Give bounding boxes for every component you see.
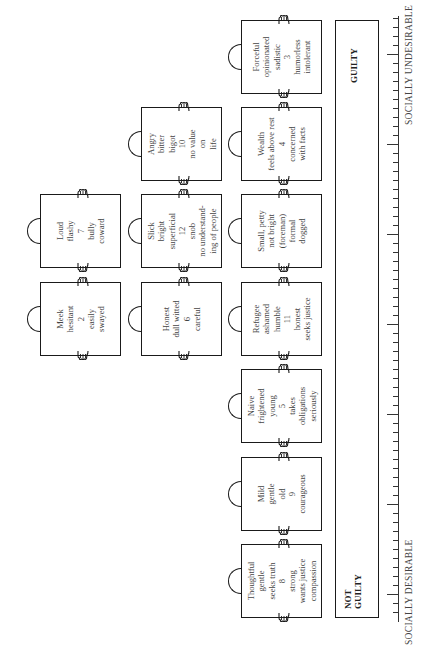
juror-card-text: Small, pettynot bright(foreman)formaldog…	[256, 195, 307, 267]
juror-card-wealth: Wealthfeels above rest4concernedwith fac…	[241, 107, 322, 181]
juror-trait: Thoughtful	[245, 545, 255, 617]
scale-tick	[393, 360, 399, 361]
juror-trait: with facts	[297, 108, 307, 180]
scale-tick	[393, 288, 399, 289]
scale-tick	[393, 153, 399, 154]
juror-trait: humble	[271, 283, 281, 355]
juror-trait: snob	[187, 195, 197, 267]
juror-trait: flashy	[65, 195, 75, 267]
scale-tick	[393, 243, 399, 244]
scale-tick	[393, 612, 399, 613]
scale-tick	[393, 351, 399, 352]
scale-label-undesirable: SOCIALLY UNDESIRABLE	[404, 5, 414, 125]
juror-trait: Mild	[256, 458, 266, 530]
juror-trait: bigot	[166, 108, 176, 180]
scale-tick	[393, 36, 399, 37]
juror-trait: no understand-	[197, 195, 207, 267]
juror-trait: ashamed	[261, 283, 271, 355]
scale-tick	[393, 396, 399, 397]
scale-tick	[393, 333, 399, 334]
juror-trait: Meek	[55, 283, 65, 355]
semicircle-handle-icon	[228, 481, 242, 507]
scale-tick	[393, 189, 399, 190]
semicircle-handle-icon	[228, 568, 242, 594]
juror-card-mild: Mildgentleold9courageous	[241, 457, 322, 531]
juror-card-forceful: Forcefulopinionatedsadistic3humorlessint…	[241, 20, 322, 94]
scale-tick	[393, 81, 399, 82]
juror-trait: hesitant	[65, 283, 75, 355]
juror-trait: wants justice	[297, 545, 307, 617]
juror-trait: bully	[86, 195, 96, 267]
juror-trait: coward	[96, 195, 106, 267]
juror-trait: no value	[187, 108, 197, 180]
juror-trait: courageous	[297, 458, 307, 530]
juror-card-naive: Naivefrightenedyoung5takesobligationsser…	[241, 369, 322, 443]
scale-tick	[393, 306, 399, 307]
juror-card-refugee: Refugeeashamedhumble11honestseeks justic…	[241, 282, 322, 356]
scale-tick	[393, 477, 399, 478]
juror-trait: ing of people	[207, 195, 217, 267]
scale-tick	[393, 369, 399, 370]
scale-tick	[393, 135, 399, 136]
juror-card-angry: Angrybitterbigot10no valueonlife	[141, 107, 222, 181]
verdict-bar: GUILTY NOT GUILTY	[335, 20, 379, 618]
juror-trait: gentle	[266, 458, 276, 530]
scale-tick	[387, 324, 399, 325]
juror-card-loud: Loudflashy7bullycoward	[40, 194, 121, 268]
juror-trait: 5	[276, 370, 286, 442]
semicircle-handle-icon	[228, 44, 242, 70]
juror-card-text: Naivefrightenedyoung5takesobligationsser…	[245, 370, 317, 442]
juror-card-text: Honestdull witted6careful	[161, 283, 202, 355]
juror-trait: 11	[282, 283, 292, 355]
juror-card-honest: Honestdull witted6careful	[141, 282, 222, 356]
juror-trait: 10	[176, 108, 186, 180]
scale-tick	[393, 441, 399, 442]
juror-trait: concerned	[287, 108, 297, 180]
juror-card-text: Meekhesitant2easilyswayed	[55, 283, 106, 355]
juror-trait: sadistic	[271, 21, 281, 93]
scale-tick	[393, 90, 399, 91]
scale-tick	[393, 27, 399, 28]
juror-trait: feels above rest	[266, 108, 276, 180]
scale-tick	[393, 108, 399, 109]
scale-tick	[393, 99, 399, 100]
semicircle-handle-icon	[228, 131, 242, 157]
juror-trait: 7	[75, 195, 85, 267]
juror-trait: life	[207, 108, 217, 180]
juror-trait: gentle	[256, 545, 266, 617]
juror-trait: Loud	[55, 195, 65, 267]
juror-card-text: Refugeeashamedhumble11honestseeks justic…	[251, 283, 313, 355]
juror-trait: frightened	[256, 370, 266, 442]
scale-tick	[393, 315, 399, 316]
juror-card-text: Thoughtfulgentleseeks truth8strongwants …	[245, 545, 317, 617]
juror-trait: 4	[276, 108, 286, 180]
scale-tick	[393, 198, 399, 199]
scale-tick	[387, 414, 399, 415]
scale-tick	[393, 459, 399, 460]
scale-tick	[393, 117, 399, 118]
semicircle-handle-icon	[27, 218, 41, 244]
juror-trait: not bright	[266, 195, 276, 267]
desirability-scale	[386, 16, 400, 622]
juror-trait: 8	[276, 545, 286, 617]
juror-trait: Naive	[245, 370, 255, 442]
juror-trait: 3	[282, 21, 292, 93]
scale-tick	[393, 126, 399, 127]
scale-tick	[393, 270, 399, 271]
juror-trait: 12	[176, 195, 186, 267]
juror-trait: (foreman)	[276, 195, 286, 267]
juror-trait: easily	[86, 283, 96, 355]
scale-tick	[393, 495, 399, 496]
scale-tick	[393, 387, 399, 388]
scale-tick	[393, 279, 399, 280]
juror-trait: 6	[182, 283, 192, 355]
scale-tick	[393, 558, 399, 559]
scale-tick	[393, 225, 399, 226]
juror-trait: superficial	[166, 195, 176, 267]
scale-tick	[393, 162, 399, 163]
semicircle-handle-icon	[228, 218, 242, 244]
juror-trait: seeks truth	[266, 545, 276, 617]
juror-trait: dogged	[297, 195, 307, 267]
scale-tick	[393, 576, 399, 577]
juror-trait: Forceful	[251, 21, 261, 93]
